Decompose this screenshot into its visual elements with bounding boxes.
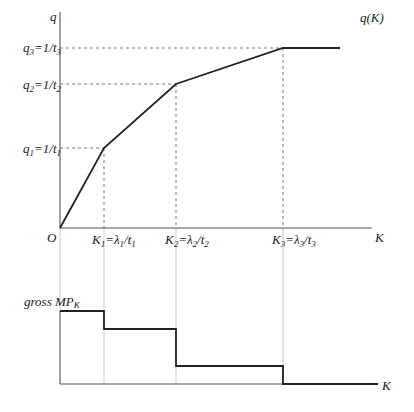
origin-label: O [47, 230, 57, 245]
y-tick-q1: q1=1/t1 [23, 141, 61, 158]
bottom-chart: gross MPK K [24, 294, 392, 393]
x-axis-label: K [374, 230, 385, 245]
x-tick-k2: K2=λ2/t2 [164, 232, 209, 249]
mp-x-axis-label: K [381, 378, 392, 393]
y-tick-q3: q3=1/t3 [23, 40, 62, 57]
top-chart: q q(K) O K q3=1/t3 q2=1/t2 q1=1/t1 K1=λ1… [23, 9, 385, 249]
x-tick-k1: K1=λ1/t1 [91, 232, 136, 249]
production-curve [60, 48, 340, 228]
x-tick-k3: K3=λ3/t3 [271, 232, 316, 249]
curve-label: q(K) [360, 10, 384, 25]
y-tick-q2: q2=1/t2 [23, 77, 62, 94]
mp-y-axis-label: gross MPK [24, 294, 81, 310]
y-axis-label: q [50, 9, 57, 24]
production-diagram: q q(K) O K q3=1/t3 q2=1/t2 q1=1/t1 K1=λ1… [0, 0, 414, 412]
mp-step-function [60, 311, 378, 384]
